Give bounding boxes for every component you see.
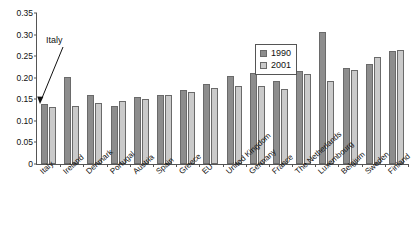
bar-1990-denmark xyxy=(87,95,94,164)
x-axis-tick-mark xyxy=(292,164,293,167)
chart-legend: 1990 2001 xyxy=(255,44,297,75)
bar-1990-sweden xyxy=(366,64,373,164)
bar-group xyxy=(153,13,176,164)
x-axis-tick-mark xyxy=(246,164,247,167)
legend-label-2001: 2001 xyxy=(271,61,291,70)
bar-1990-italy xyxy=(41,104,48,164)
bar-1990-eu xyxy=(203,84,210,164)
x-axis-tick-mark xyxy=(338,164,339,167)
bar-2001-spain xyxy=(165,95,172,164)
bar-group xyxy=(60,13,83,164)
bar-group xyxy=(269,13,292,164)
legend-label-1990: 1990 xyxy=(271,49,291,58)
bar-1990-greece xyxy=(180,90,187,164)
bar-2001-the-netherlands xyxy=(304,74,311,164)
bar-group xyxy=(223,13,246,164)
x-axis-tick-mark xyxy=(199,164,200,167)
bar-1990-spain xyxy=(157,95,164,164)
bar-group xyxy=(362,13,385,164)
bar-group xyxy=(130,13,153,164)
bar-chart: 00.050.100.150.200.250.300.35 1990 2001 … xyxy=(0,0,420,250)
bar-group xyxy=(107,13,130,164)
annotation-label-italy: Italy xyxy=(46,36,63,45)
bar-2001-luxembourg xyxy=(327,81,334,164)
x-axis-tick-mark xyxy=(362,164,363,167)
x-axis-tick-mark xyxy=(60,164,61,167)
x-axis-tick-mark xyxy=(315,164,316,167)
bar-2001-eu xyxy=(211,88,218,164)
bar-2001-germany xyxy=(258,86,265,164)
x-axis-tick-mark xyxy=(153,164,154,167)
bar-1990-ireland xyxy=(64,77,71,164)
legend-swatch-2001 xyxy=(260,62,267,69)
bar-2001-belgium xyxy=(351,70,358,164)
x-axis-tick-mark xyxy=(107,164,108,167)
bar-group xyxy=(385,13,408,164)
x-axis-tick-mark xyxy=(83,164,84,167)
bar-1990-the-netherlands xyxy=(296,71,303,164)
bar-1990-finland xyxy=(389,51,396,164)
legend-item-1990: 1990 xyxy=(260,47,291,59)
bar-1990-united-kingdom xyxy=(227,76,234,164)
bar-group xyxy=(83,13,106,164)
bar-2001-finland xyxy=(397,50,404,164)
x-axis-tick-mark xyxy=(223,164,224,167)
bar-group xyxy=(292,13,315,164)
x-axis-tick-mark xyxy=(408,164,409,167)
bar-group xyxy=(199,13,222,164)
bar-2001-united-kingdom xyxy=(235,86,242,164)
bar-2001-sweden xyxy=(374,57,381,164)
x-axis-tick-mark xyxy=(130,164,131,167)
bar-group xyxy=(176,13,199,164)
bar-2001-italy xyxy=(49,107,56,164)
x-axis-tick-mark xyxy=(385,164,386,167)
legend-swatch-1990 xyxy=(260,50,267,57)
x-axis-tick-mark xyxy=(176,164,177,167)
legend-item-2001: 2001 xyxy=(260,59,291,71)
x-axis-tick-mark xyxy=(269,164,270,167)
